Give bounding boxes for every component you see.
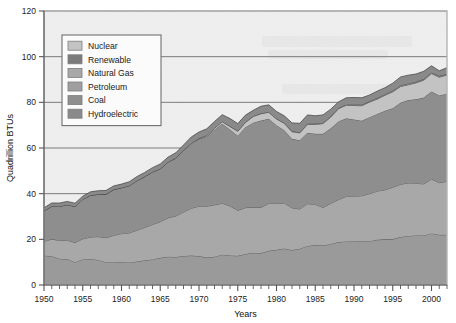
x-axis-tick-label: 1985 <box>306 294 325 304</box>
y-axis-tick-label: 100 <box>22 52 36 62</box>
x-axis-tick-label: 1960 <box>112 294 131 304</box>
legend-label: Natural Gas <box>88 68 134 78</box>
legend-item-renewable[interactable]: Renewable <box>68 55 131 65</box>
legend-swatch <box>68 96 82 105</box>
y-axis: 020406080100120Quadrillion BTUs <box>5 6 44 290</box>
legend-label: Nuclear <box>88 41 118 51</box>
y-axis-tick-label: 60 <box>27 143 37 153</box>
legend-swatch <box>68 41 82 50</box>
x-axis-tick-label: 1950 <box>35 294 54 304</box>
legend-label: Coal <box>88 95 106 105</box>
legend-item-petroleum[interactable]: Petroleum <box>68 82 127 92</box>
legend-swatch <box>68 68 82 77</box>
y-axis-tick-label: 20 <box>27 234 37 244</box>
legend: NuclearRenewableNatural GasPetroleumCoal… <box>62 35 161 126</box>
legend-swatch <box>68 82 82 91</box>
legend-item-nuclear[interactable]: Nuclear <box>68 41 118 51</box>
legend-label: Renewable <box>88 55 131 65</box>
x-axis-tick-label: 1990 <box>345 294 364 304</box>
x-axis-tick-label: 1980 <box>267 294 286 304</box>
y-axis-tick-label: 40 <box>27 189 37 199</box>
stacked-area-chart: 020406080100120Quadrillion BTUs195019551… <box>0 0 456 323</box>
x-axis-tick-label: 1970 <box>190 294 209 304</box>
x-axis-tick-label: 2000 <box>422 294 441 304</box>
x-axis-title: Years <box>234 309 257 319</box>
x-axis: 1950195519601965197019751980198519901995… <box>35 285 447 319</box>
legend-item-hydroelectric[interactable]: Hydroelectric <box>68 109 139 119</box>
y-axis-tick-label: 0 <box>31 280 36 290</box>
x-axis-tick-label: 1955 <box>73 294 92 304</box>
y-axis-tick-label: 120 <box>22 6 36 16</box>
x-axis-tick-label: 1975 <box>228 294 247 304</box>
legend-label: Petroleum <box>88 82 127 92</box>
legend-swatch <box>68 55 82 64</box>
y-axis-tick-label: 80 <box>27 97 37 107</box>
chart-container: 020406080100120Quadrillion BTUs195019551… <box>0 0 456 323</box>
x-axis-tick-label: 1995 <box>383 294 402 304</box>
y-axis-title: Quadrillion BTUs <box>5 113 15 182</box>
legend-swatch <box>68 109 82 118</box>
legend-item-natural-gas[interactable]: Natural Gas <box>68 68 134 78</box>
legend-label: Hydroelectric <box>88 109 139 119</box>
x-axis-tick-label: 1965 <box>151 294 170 304</box>
